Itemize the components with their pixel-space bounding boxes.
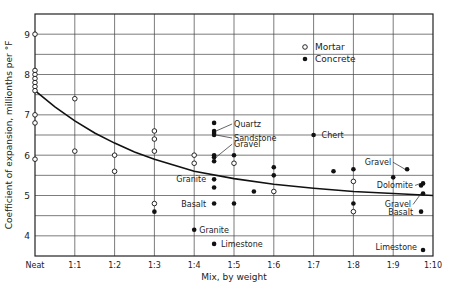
mortar-point [33, 157, 38, 162]
concrete-point [212, 177, 217, 182]
x-tick-label: 1:9 [387, 261, 400, 270]
concrete-point [212, 201, 217, 206]
y-tick-label: 9 [24, 30, 30, 40]
mortar-point [33, 88, 38, 93]
expansion-chart: Neat1:11:21:31:41:51:61:71:81:91:10 4567… [0, 0, 456, 286]
mortar-point [112, 169, 117, 174]
x-axis-ticks: Neat1:11:21:31:41:51:61:71:81:91:10 [26, 261, 442, 270]
concrete-point [405, 167, 410, 172]
mortar-point [272, 189, 277, 194]
mortar-point [152, 129, 157, 134]
annotation-label: Quartz [234, 120, 261, 129]
mortar-point [351, 179, 356, 184]
concrete-point [351, 167, 356, 172]
annotation-label: Granite [176, 175, 206, 184]
mortar-point [33, 121, 38, 126]
x-axis-label: Mix, by weight [201, 272, 267, 282]
mortar-point [33, 32, 38, 37]
concrete-point [331, 169, 336, 174]
mortar-point [73, 149, 78, 154]
concrete-point [272, 165, 277, 170]
y-tick-label: 5 [24, 191, 30, 201]
y-tick-label: 8 [24, 70, 30, 80]
concrete-point [212, 242, 217, 247]
concrete-point [212, 185, 217, 190]
concrete-point [152, 209, 157, 214]
x-tick-label: 1:10 [424, 261, 442, 270]
legend-concrete-label: Concrete [315, 54, 356, 64]
concrete-point [421, 191, 426, 196]
mortar-point [192, 161, 197, 166]
annotation-label: Gravel [365, 158, 391, 167]
annotation-leader [216, 124, 232, 131]
concrete-point [212, 155, 217, 160]
x-tick-label: 1:4 [188, 261, 201, 270]
annotation-label: Granite [199, 226, 229, 235]
x-tick-label: 1:6 [267, 261, 280, 270]
concrete-point [232, 153, 237, 158]
mortar-point [152, 137, 157, 142]
annotation-label: Chert [322, 131, 344, 140]
y-axis-ticks: 456789 [24, 30, 30, 242]
concrete-point [212, 121, 217, 126]
x-tick-label: 1:7 [307, 261, 320, 270]
mortar-point [232, 161, 237, 166]
concrete-point [192, 227, 197, 232]
concrete-point [272, 173, 277, 178]
mortar-point [112, 153, 117, 158]
x-tick-label: 1:1 [68, 261, 81, 270]
concrete-point [351, 201, 356, 206]
concrete-point [252, 189, 257, 194]
concrete-point [419, 209, 424, 214]
concrete-point [421, 248, 426, 253]
mortar-point [73, 96, 78, 101]
legend-mortar-label: Mortar [315, 42, 345, 52]
x-tick-label: 1:5 [228, 261, 241, 270]
concrete-point [212, 159, 217, 164]
mortar-point [351, 209, 356, 214]
annotation-leader [393, 162, 405, 169]
y-tick-label: 7 [24, 110, 30, 120]
annotation-label: Basalt [181, 200, 206, 209]
x-tick-label: 1:2 [108, 261, 121, 270]
legend: Mortar Concrete [303, 42, 356, 64]
y-tick-label: 6 [24, 151, 30, 161]
x-tick-label: 1:8 [347, 261, 360, 270]
annotation-label: Limestone [375, 243, 417, 252]
annotation-leader [216, 135, 232, 138]
concrete-point [212, 133, 217, 138]
mortar-point [152, 149, 157, 154]
x-tick-label: 1:3 [148, 261, 161, 270]
data-points [33, 32, 426, 252]
legend-concrete-marker [303, 57, 308, 62]
y-tick-label: 4 [24, 231, 30, 241]
x-tick-label: Neat [26, 261, 45, 270]
annotation-label: Gravel [234, 140, 260, 149]
mortar-point [152, 201, 157, 206]
concrete-point [391, 175, 396, 180]
concrete-point [232, 201, 237, 206]
mortar-point [33, 113, 38, 118]
concrete-point [311, 133, 316, 138]
annotation-label: Dolomite [377, 181, 413, 190]
annotation-label: Limestone [221, 240, 263, 249]
annotation-label: Basalt [388, 208, 413, 217]
mortar-point [192, 153, 197, 158]
legend-mortar-marker [303, 45, 308, 50]
y-axis-label: Coefficient of expansion, millionths per… [4, 41, 14, 230]
